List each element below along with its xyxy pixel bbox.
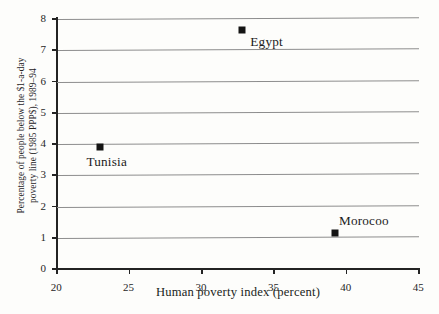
data-point-egypt[interactable]	[239, 26, 246, 33]
y-axis-title-line-2: poverty line (1985 PPP$), 1989–94	[28, 57, 40, 213]
y-tick-5: 5	[52, 112, 58, 114]
y-tick-4: 4	[52, 143, 58, 145]
y-axis-title: Percentage of people below the $1-a-day …	[0, 0, 56, 270]
y-tick-label-3: 3	[41, 168, 47, 180]
y-tick-6: 6	[52, 81, 58, 83]
gridline-y-3	[57, 173, 419, 176]
x-tick-45: 45	[418, 268, 420, 274]
y-tick-label-2: 2	[41, 200, 47, 212]
data-point-morocoo[interactable]	[332, 230, 339, 237]
y-tick-label-0: 0	[41, 262, 47, 274]
y-tick-label-6: 6	[41, 75, 47, 87]
data-point-label-tunisia: Tunisia	[86, 154, 127, 170]
x-axis-line	[56, 268, 419, 270]
y-axis-title-line-1: Percentage of people below the $1-a-day	[17, 57, 27, 213]
x-tick-40: 40	[346, 268, 348, 274]
x-tick-35: 35	[273, 268, 275, 274]
y-tick-label-5: 5	[41, 106, 47, 118]
y-tick-label-1: 1	[41, 231, 47, 243]
y-tick-7: 7	[52, 49, 58, 51]
plot-area: 012345678 202530354045 EgyptTunisiaMoroc…	[57, 19, 419, 269]
x-tick-25: 25	[129, 268, 131, 274]
y-tick-3: 3	[52, 174, 58, 176]
gridline-y-4	[57, 142, 419, 145]
data-point-tunisia[interactable]	[97, 144, 104, 151]
y-tick-8: 8	[52, 18, 58, 20]
x-axis-title: Human poverty index (percent)	[57, 285, 419, 300]
data-point-label-egypt: Egypt	[250, 34, 283, 50]
y-tick-label-4: 4	[41, 137, 47, 149]
gridline-y-8	[57, 17, 419, 20]
gridline-y-1	[57, 236, 419, 239]
gridline-y-7	[57, 48, 419, 51]
gridline-y-2	[57, 205, 419, 208]
x-tick-20: 20	[56, 268, 58, 274]
gridline-y-5	[57, 111, 419, 114]
y-axis-title-text: Percentage of people below the $1-a-day …	[17, 57, 40, 213]
y-tick-label-8: 8	[41, 12, 47, 24]
x-tick-30: 30	[201, 268, 203, 274]
y-tick-1: 1	[52, 237, 58, 239]
gridline-y-6	[57, 80, 419, 83]
scatter-chart-figure: Percentage of people below the $1-a-day …	[0, 0, 439, 314]
data-point-label-morocoo: Morocoo	[339, 213, 389, 229]
y-tick-label-7: 7	[41, 43, 47, 55]
y-tick-2: 2	[52, 206, 58, 208]
